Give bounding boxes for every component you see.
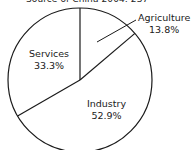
label-services-name: Services (29, 48, 69, 60)
label-services-value: 33.3% (29, 60, 69, 72)
label-industry-value: 52.9% (87, 110, 126, 122)
label-industry: Industry 52.9% (87, 98, 126, 122)
label-agriculture-value: 13.8% (138, 24, 190, 36)
label-services: Services 33.3% (29, 48, 69, 72)
label-agriculture-name: Agriculture (138, 12, 190, 24)
label-agriculture: Agriculture 13.8% (138, 12, 190, 36)
label-industry-name: Industry (87, 98, 126, 110)
